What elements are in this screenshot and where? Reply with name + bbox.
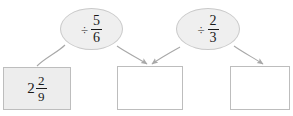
start-box-denominator: 9 — [36, 89, 47, 103]
operation-2-fraction: 2 3 — [208, 14, 219, 45]
start-box: 2 2 9 — [3, 67, 71, 110]
start-box-fraction: 2 9 — [36, 74, 47, 103]
operation-1-fraction: 5 6 — [91, 14, 102, 45]
operation-1-numerator: 5 — [91, 14, 102, 29]
start-box-numerator: 2 — [36, 74, 47, 88]
fraction-flow-diagram: 2 2 9 ÷ 5 6 ÷ 2 3 — [0, 0, 293, 116]
operation-1-denominator: 6 — [91, 30, 102, 45]
operation-1-bubble: ÷ 5 6 — [60, 8, 123, 50]
connector-op2-to-result1 — [152, 47, 180, 64]
start-box-whole: 2 — [27, 81, 36, 96]
result-box-2[interactable] — [230, 66, 290, 110]
operation-2-denominator: 3 — [208, 30, 219, 45]
operation-2-numerator: 2 — [208, 14, 219, 29]
connector-op2-to-result2 — [234, 46, 263, 64]
division-sign-icon: ÷ — [197, 22, 207, 38]
connector-start-to-op1 — [37, 45, 65, 66]
connector-op1-to-result1 — [117, 46, 147, 64]
result-box-1[interactable] — [117, 66, 183, 110]
division-sign-icon: ÷ — [81, 22, 91, 38]
operation-2-bubble: ÷ 2 3 — [176, 8, 240, 50]
start-box-value: 2 2 9 — [27, 74, 47, 103]
